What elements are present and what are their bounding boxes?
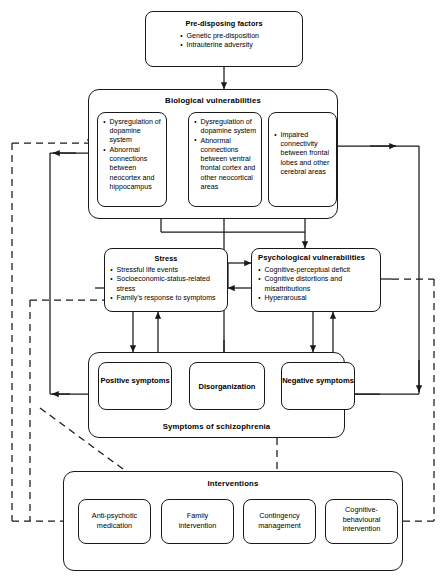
list-item: Cognitive distortions and misattribution… (258, 275, 376, 293)
list-item: Impaired connectivity between frontal lo… (274, 131, 333, 177)
negative-symptoms[interactable]: Negative symptoms (281, 362, 355, 410)
list-item: Socioeconomic-status-related stress (110, 275, 223, 293)
disorganization[interactable]: Disorganization (189, 362, 265, 410)
bio-box-2[interactable]: Dysregulation of dopamine system Abnorma… (188, 112, 262, 207)
predisposing-factors-list: Genetic pre-disposition Intrauterine adv… (180, 32, 292, 51)
bio-box-3[interactable]: Impaired connectivity between frontal lo… (268, 112, 337, 207)
negative-symptoms-label: Negative symptoms (282, 376, 354, 386)
psychological-vulnerabilities-box[interactable]: Psychological vulnerabilities Cognitive-… (251, 248, 381, 312)
biological-vulnerabilities-title: Biological vulnerabilities (89, 96, 337, 105)
stress-list: Stressful life events Socioeconomic-stat… (110, 266, 223, 303)
cognitive-behavioural-intervention-label: Cognitive-behavioural intervention (330, 505, 393, 534)
psychological-vulnerabilities-list: Cognitive-perceptual deficit Cognitive d… (258, 266, 376, 303)
list-item: Cognitive-perceptual deficit (258, 266, 376, 275)
list-item: Hyperarousal (258, 294, 376, 303)
anti-psychotic-medication[interactable]: Anti-psychotic medication (78, 499, 151, 544)
bio-box-1[interactable]: Dysregulation of dopamine system Abnorma… (97, 112, 167, 207)
list-item: Abnormal connections between neocortex a… (103, 146, 163, 192)
list-item: Genetic pre-disposition (180, 32, 292, 41)
psychological-vulnerabilities-title: Psychological vulnerabilities (258, 254, 376, 263)
anti-psychotic-medication-label: Anti-psychotic medication (84, 511, 145, 530)
family-intervention[interactable]: Family intervention (161, 499, 234, 544)
stress-box[interactable]: Stress Stressful life events Socioeconom… (104, 248, 228, 312)
bio-box-1-list: Dysregulation of dopamine system Abnorma… (103, 118, 163, 192)
list-item: Intrauterine adversity (180, 41, 292, 50)
bio-box-3-list: Impaired connectivity between frontal lo… (274, 131, 333, 177)
family-intervention-label: Family intervention (167, 511, 228, 530)
list-item: Abnormal connections between ventral fro… (194, 137, 258, 192)
list-item: Stressful life events (110, 266, 223, 275)
list-item: Dysregulation of dopamine system (103, 118, 163, 146)
cognitive-behavioural-intervention[interactable]: Cognitive-behavioural intervention (325, 499, 398, 544)
stress-title: Stress (105, 254, 227, 264)
list-item: Family's response to symptoms (110, 294, 223, 303)
contingency-management[interactable]: Contingency management (243, 499, 316, 544)
contingency-management-label: Contingency management (248, 511, 311, 530)
disorganization-label: Disorganization (190, 382, 264, 392)
list-item: Dysregulation of dopamine system (194, 118, 258, 136)
predisposing-factors-box[interactable]: Pre-disposing factors Genetic pre-dispos… (145, 11, 303, 67)
symptoms-group-title: Symptoms of schizophrenia (89, 422, 344, 431)
schizophrenia-model-diagram: Pre-disposing factors Genetic pre-dispos… (0, 0, 446, 581)
predisposing-factors-title: Pre-disposing factors (146, 19, 302, 29)
interventions-group-title: Interventions (64, 479, 402, 488)
positive-symptoms[interactable]: Positive symptoms (98, 362, 172, 410)
positive-symptoms-label: Positive symptoms (99, 376, 171, 386)
bio-box-2-list: Dysregulation of dopamine system Abnorma… (194, 118, 258, 192)
